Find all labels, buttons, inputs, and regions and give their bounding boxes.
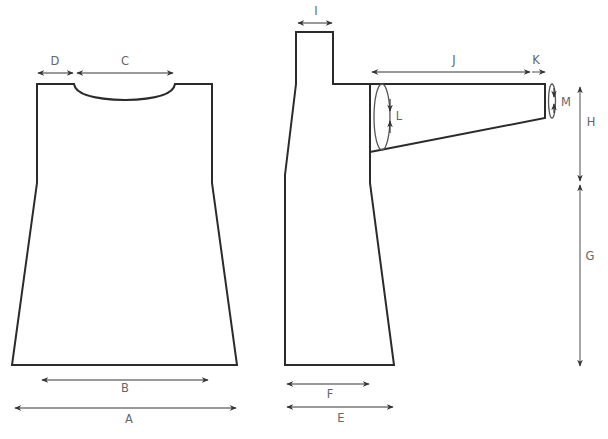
- label-g: G: [586, 251, 595, 263]
- label-b: B: [121, 383, 129, 395]
- side-view-outline: [285, 32, 394, 365]
- label-c: C: [121, 56, 129, 68]
- label-h: H: [587, 117, 596, 129]
- side-view-piece: [285, 32, 394, 365]
- label-m: M: [561, 97, 571, 109]
- label-j: J: [452, 55, 455, 67]
- label-l: L: [396, 111, 402, 123]
- front-body-piece: [12, 84, 237, 365]
- front-body-outline: [12, 84, 237, 365]
- label-f: F: [327, 389, 334, 401]
- upper-arm-ellipse: [374, 84, 390, 150]
- label-k: K: [532, 55, 540, 67]
- label-i: I: [314, 6, 317, 18]
- label-a: A: [125, 414, 133, 426]
- garment-schematic: [0, 0, 608, 439]
- label-d: D: [51, 56, 60, 68]
- label-e: E: [337, 413, 344, 425]
